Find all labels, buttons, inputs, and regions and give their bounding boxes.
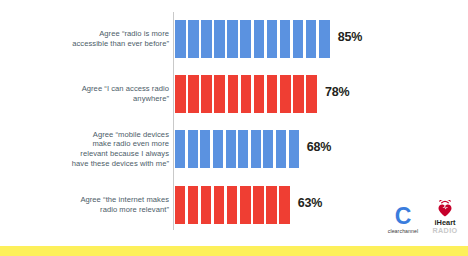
bar-segment	[240, 186, 250, 224]
bar-segment	[293, 75, 304, 113]
bar-segment	[279, 186, 289, 224]
bar-segment	[226, 130, 236, 168]
bar-segment	[289, 130, 299, 168]
bar-segment	[280, 20, 291, 58]
chart-row: Agree “radio is more accessible than eve…	[0, 14, 468, 64]
bar-segment	[201, 20, 212, 58]
bar-segment	[266, 186, 276, 224]
bar-segment	[227, 186, 237, 224]
bar-segment	[306, 20, 317, 58]
bar-segment	[214, 20, 225, 58]
bar-segment	[201, 186, 211, 224]
row-label-line: radio more relevant”	[9, 205, 169, 215]
bar-value-label: 85%	[338, 30, 362, 44]
bar-segment	[188, 75, 199, 113]
bar-segment	[175, 75, 186, 113]
bar-segment	[214, 186, 224, 224]
iheart-radio-icon	[435, 200, 455, 218]
bar-segment	[267, 20, 278, 58]
clearchannel-logo: C clearchannel	[385, 206, 421, 234]
bottom-accent-band	[0, 246, 468, 256]
bar-segment	[253, 186, 263, 224]
bar-segment	[293, 20, 304, 58]
bar-track	[175, 75, 317, 113]
bar-value-label: 63%	[298, 196, 322, 210]
bar-segment	[201, 75, 212, 113]
clearchannel-c-icon: C	[395, 206, 412, 227]
bar-segment	[241, 75, 252, 113]
bar-segment	[175, 186, 185, 224]
bar-segment	[276, 130, 286, 168]
iheartradio-logo: iHeart RADIO	[428, 200, 462, 234]
row-label-line: accessible than ever before”	[9, 39, 169, 49]
bar-segments	[175, 75, 317, 113]
infographic-slide: Agree “radio is more accessible than eve…	[0, 0, 468, 256]
radio-wordmark: RADIO	[432, 227, 457, 234]
bar-segment	[228, 75, 239, 113]
bar-segment	[306, 75, 317, 113]
row-label: Agree “radio is more accessible than eve…	[9, 29, 169, 48]
bar-segment	[175, 20, 186, 58]
row-label-line: relevant because I always	[9, 149, 169, 159]
bar-track	[175, 20, 330, 58]
row-label-line: anywhere”	[9, 94, 169, 104]
row-label-line: have these devices with me”	[9, 159, 169, 169]
bar-segment	[263, 130, 273, 168]
bar-segment	[214, 75, 225, 113]
chart-row: Agree “I can access radio anywhere” 78%	[0, 69, 468, 119]
bar-segment	[319, 20, 330, 58]
row-label: Agree “the internet makes radio more rel…	[9, 195, 169, 214]
row-label-line: Agree “the internet makes	[9, 195, 169, 205]
bar-segment	[240, 20, 251, 58]
chart-row: Agree “mobile devices make radio even mo…	[0, 124, 468, 174]
row-label-line: Agree “mobile devices	[9, 130, 169, 140]
bar-value-label: 78%	[325, 85, 349, 99]
bar-segment	[188, 130, 198, 168]
clearchannel-wordmark: clearchannel	[388, 228, 419, 234]
bar-segment	[254, 20, 265, 58]
bar-track	[175, 186, 290, 224]
bar-value-label: 68%	[307, 140, 331, 154]
row-label-line: Agree “I can access radio	[9, 84, 169, 94]
row-label-line: Agree “radio is more	[9, 29, 169, 39]
bar-segment	[188, 20, 199, 58]
bar-segment	[254, 75, 265, 113]
row-label: Agree “mobile devices make radio even mo…	[9, 130, 169, 168]
bar-segment	[267, 75, 278, 113]
bar-segment	[227, 20, 238, 58]
bar-segments	[175, 130, 299, 168]
bar-segment	[200, 130, 210, 168]
bar-segment	[175, 130, 185, 168]
bar-segment	[280, 75, 291, 113]
brand-logos: C clearchannel iHeart RADIO	[385, 200, 462, 234]
bar-segment	[188, 186, 198, 224]
bar-segments	[175, 20, 330, 58]
row-label: Agree “I can access radio anywhere”	[9, 84, 169, 103]
bar-track	[175, 130, 299, 168]
row-label-line: make radio even more	[9, 139, 169, 149]
bar-segment	[251, 130, 261, 168]
bar-segments	[175, 186, 290, 224]
bar-segment	[213, 130, 223, 168]
bar-segment	[238, 130, 248, 168]
bar-chart: Agree “radio is more accessible than eve…	[0, 0, 468, 232]
